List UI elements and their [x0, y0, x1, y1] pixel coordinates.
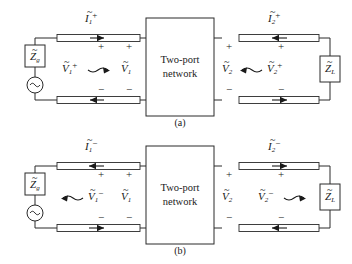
polarity-minus-line-left-b: −: [98, 211, 104, 223]
polarity-plus-line-left-a: +: [98, 40, 104, 52]
panel-a: ~ Zg ~ I1+ + + −: [25, 5, 340, 129]
voltage-wave-label-left-b: ~ V1−: [88, 183, 103, 204]
voltage-wave-label-right-a: ~ V2+: [267, 55, 282, 76]
polarity-minus-port1-b: −: [126, 211, 132, 223]
polarity-minus-port2-a: −: [226, 83, 232, 95]
current-label-left-a: ~ I1+: [84, 5, 97, 26]
voltage-wave-label-left-a: ~ V1+: [62, 55, 77, 76]
wave-direction-arrow-right-b: [284, 196, 306, 202]
load-impedance-label-a: ~ ZL: [325, 55, 335, 76]
panel-caption-b: (b): [174, 245, 186, 257]
wire-load-bottom-b: [319, 210, 330, 228]
polarity-minus-line-right-b: −: [278, 211, 284, 223]
wire-load-top-b: [319, 166, 330, 184]
circuit-diagram-canvas: ~ Zg ~ I1+ + + −: [0, 0, 352, 264]
current-label-right-a: ~ I2+: [267, 5, 280, 26]
voltage-port-label-right-b: ~ V2: [222, 183, 233, 204]
two-port-network-box-a: [146, 18, 214, 116]
two-port-network-label-a: Two-port: [161, 54, 200, 65]
source-impedance-label-b: ~ Zg: [30, 171, 40, 192]
two-port-network-label-b: Two-port: [161, 182, 200, 193]
source-impedance-label-a: ~ Zg: [30, 43, 40, 64]
wire-source-bottom-a: [35, 93, 57, 100]
wave-direction-arrow-left-b: [61, 196, 83, 202]
panel-caption-a: (a): [174, 117, 185, 129]
voltage-wave-label-right-b: ~ V2−: [258, 183, 273, 204]
two-port-network-figure: ~ Zg ~ I1+ + + −: [0, 0, 352, 264]
polarity-plus-port2-b: +: [226, 168, 232, 180]
polarity-plus-line-right-b: +: [278, 168, 284, 180]
polarity-plus-port2-a: +: [226, 40, 232, 52]
two-port-network-label2-b: network: [163, 196, 198, 207]
polarity-minus-line-left-a: −: [98, 83, 104, 95]
two-port-network-label2-a: network: [163, 68, 198, 79]
voltage-port-label-right-a: ~ V2: [222, 55, 233, 76]
wave-direction-arrow-right-a: [240, 68, 262, 74]
polarity-plus-port1-b: +: [126, 168, 132, 180]
current-label-left-b: ~ I1−: [84, 133, 97, 154]
wire-source-bottom-b: [35, 221, 57, 228]
polarity-minus-port1-a: −: [126, 83, 132, 95]
wave-direction-arrow-left-a: [88, 68, 110, 74]
voltage-port-label-left-b: ~ V1: [121, 183, 131, 204]
wire-load-bottom-a: [319, 82, 330, 100]
panel-b: ~ Zg ~ I1− + + −: [25, 133, 340, 257]
voltage-port-label-left-a: ~ V1: [121, 55, 131, 76]
polarity-minus-line-right-a: −: [278, 83, 284, 95]
polarity-plus-port1-a: +: [126, 40, 132, 52]
wire-load-top-a: [319, 38, 330, 56]
polarity-plus-line-left-b: +: [98, 168, 104, 180]
two-port-network-box-b: [146, 146, 214, 244]
polarity-plus-line-right-a: +: [278, 40, 284, 52]
load-impedance-label-b: ~ ZL: [325, 183, 335, 204]
polarity-minus-port2-b: −: [226, 211, 232, 223]
current-label-right-b: ~ I2−: [267, 133, 280, 154]
